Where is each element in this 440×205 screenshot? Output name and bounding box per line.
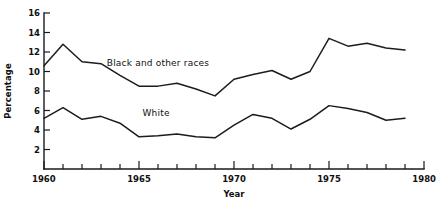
y-tick-label: 14 — [28, 28, 40, 38]
x-tick-label: 1965 — [127, 174, 151, 184]
chart-figure: 246810121416 19601965197019751980 Black … — [0, 0, 440, 205]
x-tick-label: 1975 — [317, 174, 341, 184]
y-tick-label: 10 — [28, 67, 40, 77]
y-tick-label: 2 — [34, 145, 40, 155]
x-tick-labels: 19601965197019751980 — [32, 174, 436, 184]
line-chart-canvas: 246810121416 19601965197019751980 Black … — [0, 0, 440, 205]
series-label-white: White — [143, 108, 170, 118]
y-tick-label: 16 — [28, 8, 40, 18]
plot-series-group — [44, 38, 405, 137]
y-tick-labels: 246810121416 — [28, 8, 40, 155]
y-tick-label: 6 — [34, 106, 40, 116]
series-line-white — [44, 106, 405, 138]
y-tick-marks — [44, 13, 50, 150]
x-axis-group: 19601965197019751980 — [32, 161, 436, 184]
x-tick-label: 1980 — [412, 174, 436, 184]
x-tick-label: 1970 — [222, 174, 246, 184]
y-axis-title: Percentage — [3, 63, 13, 119]
y-tick-label: 4 — [34, 125, 40, 135]
x-axis-title: Year — [222, 189, 245, 199]
x-tick-label: 1960 — [32, 174, 56, 184]
y-tick-label: 12 — [28, 47, 40, 57]
y-tick-label: 8 — [34, 86, 40, 96]
y-axis-group: 246810121416 — [28, 8, 50, 169]
series-line-black-and-other-races — [44, 38, 405, 96]
series-label-black-and-other-races: Black and other races — [107, 58, 210, 68]
